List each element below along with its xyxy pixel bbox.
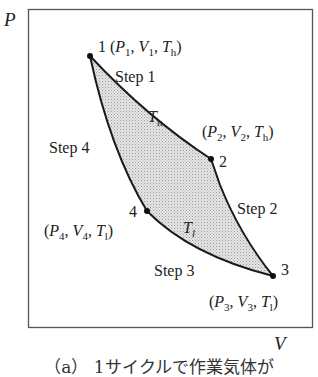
cycle-area (90, 56, 273, 276)
svg-text:(P2, V2, Th): (P2, V2, Th) (202, 123, 274, 143)
step-4-label: Step 4 (49, 139, 89, 157)
point-3-state-label: (P3, V3, Tl) (209, 293, 278, 313)
step-3-label: Step 3 (154, 262, 194, 280)
point-2-state-label: (P2, V2, Th) (202, 123, 274, 143)
step-1-label: Step 1 (115, 68, 155, 86)
y-axis-label: P (3, 9, 16, 30)
point-4-number: 4 (129, 203, 137, 220)
point-4-state-label: (P4, V4, Tl) (44, 222, 113, 242)
figure-caption: （a） 1サイクルで作業気体が (0, 357, 318, 377)
point-2-number: 2 (219, 153, 227, 170)
state-point-2 (208, 156, 214, 162)
svg-text:1 (P1, V1, Th): 1 (P1, V1, Th) (98, 38, 182, 58)
step-2-label: Step 2 (237, 200, 277, 218)
svg-text:(P4, V4, Tl): (P4, V4, Tl) (44, 222, 113, 242)
point-1-label: 1 (P1, V1, Th) (98, 38, 182, 58)
point-3-number: 3 (281, 261, 289, 278)
state-point-1 (87, 53, 93, 59)
svg-text:(P3, V3, Tl): (P3, V3, Tl) (209, 293, 278, 313)
state-point-4 (144, 208, 150, 214)
x-axis-label: V (274, 333, 288, 354)
state-point-3 (270, 273, 276, 279)
